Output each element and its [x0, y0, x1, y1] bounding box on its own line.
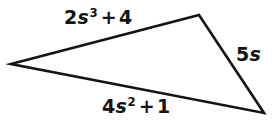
top-constant: 4 — [119, 6, 132, 28]
right-variable: s — [249, 43, 261, 65]
top-coefficient: 2 — [64, 6, 77, 28]
top-operator: + — [101, 6, 117, 28]
top-exponent: 3 — [89, 6, 97, 20]
top-variable: s — [77, 6, 89, 28]
bottom-constant: 1 — [157, 95, 170, 117]
right-side-label: 5s — [236, 45, 261, 64]
top-side-label: 2s3+4 — [64, 8, 132, 27]
bottom-coefficient: 4 — [102, 95, 115, 117]
bottom-side-label: 4s2+1 — [102, 97, 170, 116]
bottom-operator: + — [139, 95, 155, 117]
bottom-variable: s — [115, 95, 127, 117]
triangle-figure: 2s3+4 5s 4s2+1 — [0, 0, 276, 128]
right-coefficient: 5 — [236, 43, 249, 65]
bottom-exponent: 2 — [127, 95, 135, 109]
